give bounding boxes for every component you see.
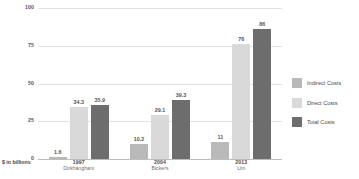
legend-label: Total Costs: [307, 119, 335, 125]
legend-item[interactable]: Total Costs: [292, 117, 358, 127]
bar-group: 1.634.335.9: [38, 0, 119, 179]
chart-legend: Indirect CostsDirect CostsTotal Costs: [292, 78, 358, 137]
legend-label: Indirect Costs: [307, 80, 341, 86]
y-axis-tick-label: 25: [28, 119, 34, 124]
bar-rect: [151, 115, 169, 159]
legend-swatch-icon: [292, 78, 302, 88]
grouped-bar-chart: 1007550250 1.634.335.910.229.139.3117686…: [0, 0, 359, 179]
bar: 10.2: [130, 144, 148, 159]
y-axis-unit-caption: $ in billions: [2, 160, 31, 166]
bar-group: 10.229.139.3: [119, 0, 200, 179]
y-axis-tick-label: 75: [28, 43, 34, 48]
bar-rect: [130, 144, 148, 159]
bar-rect: [91, 105, 109, 159]
legend-label: Direct Costs: [307, 100, 337, 106]
x-axis-sublabel: Dirkhanghani: [63, 165, 94, 171]
bar: 34.3: [70, 107, 88, 159]
bar-rect: [232, 44, 250, 159]
bar: 35.9: [91, 105, 109, 159]
x-axis-sublabel: Lim: [235, 165, 247, 171]
y-axis: 1007550250: [0, 0, 38, 179]
legend-swatch-icon: [292, 117, 302, 127]
y-axis-tick-label: 0: [31, 156, 34, 161]
bar: 29.1: [151, 115, 169, 159]
bar-rect: [211, 142, 229, 159]
bar-value-label: 29.1: [155, 108, 166, 113]
x-axis-group-label: 1997Dirkhanghani: [63, 159, 94, 172]
bar: 11: [211, 142, 229, 159]
x-axis-sublabel: Bickers: [151, 165, 168, 171]
bar-value-label: 1.6: [54, 150, 62, 155]
x-axis-group-label: 2004Bickers: [151, 159, 168, 172]
bar-value-label: 11: [217, 135, 223, 140]
bar-value-label: 86: [259, 22, 265, 27]
bar-value-label: 39.3: [176, 93, 187, 98]
bar: 39.3: [172, 100, 190, 159]
bar-rect: [253, 29, 271, 159]
y-axis-tick-label: 100: [25, 5, 34, 10]
x-axis-group-label: 2013Lim: [235, 159, 247, 172]
bar-value-label: 35.9: [94, 98, 105, 103]
bar-rect: [172, 100, 190, 159]
x-axis-labels: 1997Dirkhanghani2004Bickers2013Lim: [38, 159, 282, 179]
bar-group: 117686: [201, 0, 282, 179]
bars-area: 1.634.335.910.229.139.3117686: [38, 0, 282, 179]
legend-swatch-icon: [292, 98, 302, 108]
y-axis-tick-label: 50: [28, 81, 34, 86]
bar-value-label: 76: [238, 37, 244, 42]
bar-value-label: 34.3: [73, 100, 84, 105]
plot-area: 1007550250 1.634.335.910.229.139.3117686…: [0, 0, 282, 179]
bar-value-label: 10.2: [134, 137, 145, 142]
bar-rect: [70, 107, 88, 159]
bar: 76: [232, 44, 250, 159]
legend-item[interactable]: Direct Costs: [292, 98, 358, 108]
bar: 86: [253, 29, 271, 159]
legend-item[interactable]: Indirect Costs: [292, 78, 358, 88]
